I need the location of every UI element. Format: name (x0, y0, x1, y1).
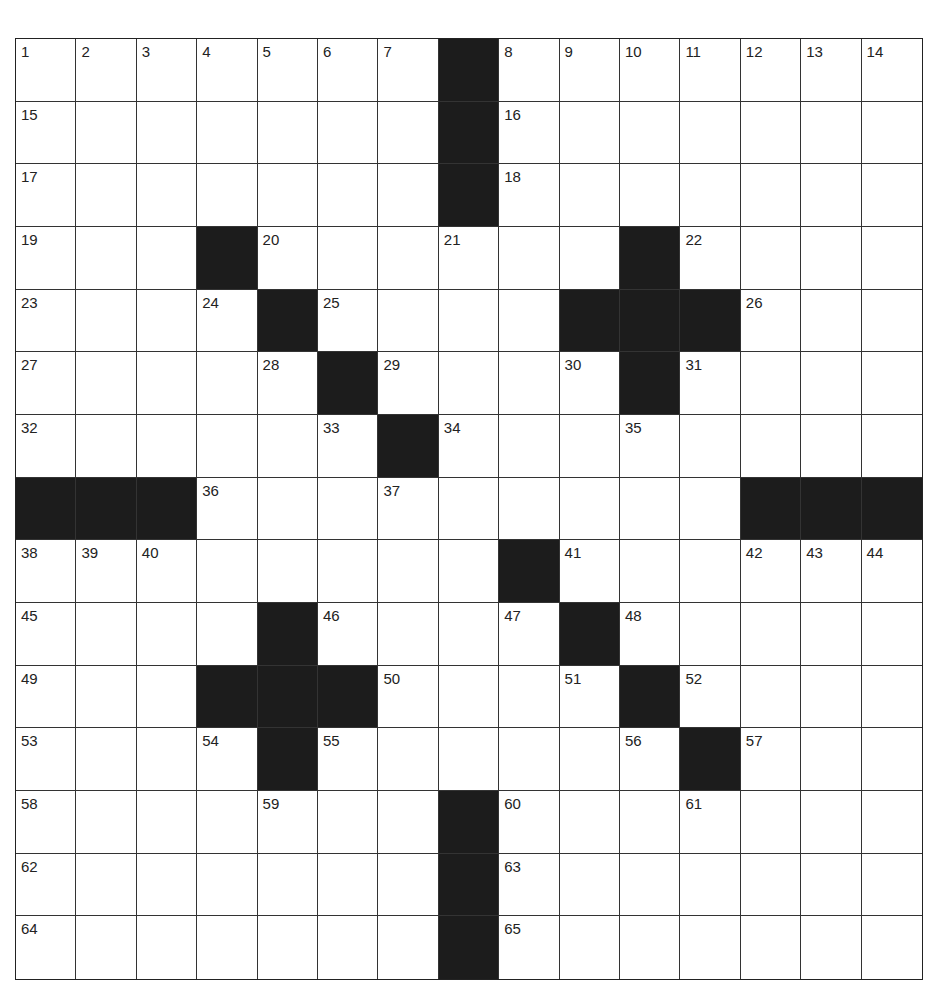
grid-cell[interactable] (378, 728, 438, 791)
grid-cell[interactable] (862, 102, 922, 165)
grid-cell[interactable] (258, 916, 318, 979)
grid-cell[interactable]: 62 (16, 854, 76, 917)
grid-cell[interactable] (318, 227, 378, 290)
grid-cell[interactable] (741, 666, 801, 729)
grid-cell[interactable] (318, 164, 378, 227)
grid-cell[interactable] (76, 102, 136, 165)
grid-cell[interactable] (680, 603, 740, 666)
grid-cell[interactable] (439, 603, 499, 666)
grid-cell[interactable] (741, 352, 801, 415)
grid-cell[interactable] (76, 791, 136, 854)
grid-cell[interactable] (378, 227, 438, 290)
grid-cell[interactable] (680, 916, 740, 979)
grid-cell[interactable]: 45 (16, 603, 76, 666)
grid-cell[interactable] (801, 854, 861, 917)
grid-cell[interactable] (499, 666, 559, 729)
grid-cell[interactable] (378, 540, 438, 603)
grid-cell[interactable] (76, 916, 136, 979)
grid-cell[interactable] (801, 791, 861, 854)
grid-cell[interactable] (197, 415, 257, 478)
grid-cell[interactable] (741, 603, 801, 666)
grid-cell[interactable] (137, 227, 197, 290)
grid-cell[interactable] (439, 666, 499, 729)
grid-cell[interactable] (76, 290, 136, 353)
grid-cell[interactable]: 6 (318, 39, 378, 102)
grid-cell[interactable] (76, 227, 136, 290)
grid-cell[interactable]: 2 (76, 39, 136, 102)
grid-cell[interactable] (560, 728, 620, 791)
grid-cell[interactable] (499, 227, 559, 290)
grid-cell[interactable] (620, 478, 680, 541)
grid-cell[interactable] (560, 415, 620, 478)
grid-cell[interactable] (862, 791, 922, 854)
grid-cell[interactable] (801, 666, 861, 729)
grid-cell[interactable] (741, 854, 801, 917)
grid-cell[interactable]: 1 (16, 39, 76, 102)
grid-cell[interactable] (318, 540, 378, 603)
grid-cell[interactable] (439, 540, 499, 603)
grid-cell[interactable] (560, 916, 620, 979)
grid-cell[interactable]: 14 (862, 39, 922, 102)
grid-cell[interactable] (378, 791, 438, 854)
grid-cell[interactable] (741, 102, 801, 165)
grid-cell[interactable] (76, 603, 136, 666)
grid-cell[interactable] (680, 164, 740, 227)
grid-cell[interactable] (76, 666, 136, 729)
grid-cell[interactable]: 49 (16, 666, 76, 729)
grid-cell[interactable]: 20 (258, 227, 318, 290)
grid-cell[interactable]: 30 (560, 352, 620, 415)
grid-cell[interactable]: 33 (318, 415, 378, 478)
grid-cell[interactable] (862, 666, 922, 729)
grid-cell[interactable] (439, 478, 499, 541)
grid-cell[interactable] (197, 540, 257, 603)
grid-cell[interactable] (76, 164, 136, 227)
grid-cell[interactable] (197, 854, 257, 917)
grid-cell[interactable] (801, 728, 861, 791)
grid-cell[interactable]: 55 (318, 728, 378, 791)
grid-cell[interactable] (318, 791, 378, 854)
grid-cell[interactable] (137, 415, 197, 478)
grid-cell[interactable] (680, 415, 740, 478)
grid-cell[interactable] (137, 352, 197, 415)
grid-cell[interactable] (197, 603, 257, 666)
grid-cell[interactable]: 12 (741, 39, 801, 102)
grid-cell[interactable] (741, 916, 801, 979)
grid-cell[interactable]: 17 (16, 164, 76, 227)
grid-cell[interactable] (137, 102, 197, 165)
grid-cell[interactable]: 9 (560, 39, 620, 102)
grid-cell[interactable]: 46 (318, 603, 378, 666)
grid-cell[interactable]: 57 (741, 728, 801, 791)
grid-cell[interactable]: 15 (16, 102, 76, 165)
grid-cell[interactable] (137, 290, 197, 353)
grid-cell[interactable] (862, 603, 922, 666)
grid-cell[interactable] (258, 854, 318, 917)
grid-cell[interactable] (258, 102, 318, 165)
grid-cell[interactable]: 21 (439, 227, 499, 290)
grid-cell[interactable] (862, 290, 922, 353)
grid-cell[interactable] (258, 478, 318, 541)
grid-cell[interactable]: 50 (378, 666, 438, 729)
grid-cell[interactable] (680, 478, 740, 541)
grid-cell[interactable]: 31 (680, 352, 740, 415)
grid-cell[interactable] (862, 916, 922, 979)
grid-cell[interactable]: 5 (258, 39, 318, 102)
grid-cell[interactable] (620, 791, 680, 854)
grid-cell[interactable]: 37 (378, 478, 438, 541)
grid-cell[interactable]: 7 (378, 39, 438, 102)
grid-cell[interactable] (741, 227, 801, 290)
grid-cell[interactable] (197, 352, 257, 415)
grid-cell[interactable]: 34 (439, 415, 499, 478)
grid-cell[interactable] (197, 102, 257, 165)
grid-cell[interactable] (741, 791, 801, 854)
grid-cell[interactable]: 3 (137, 39, 197, 102)
grid-cell[interactable]: 32 (16, 415, 76, 478)
grid-cell[interactable]: 61 (680, 791, 740, 854)
grid-cell[interactable] (560, 227, 620, 290)
grid-cell[interactable] (318, 478, 378, 541)
grid-cell[interactable] (378, 916, 438, 979)
grid-cell[interactable]: 56 (620, 728, 680, 791)
grid-cell[interactable]: 26 (741, 290, 801, 353)
grid-cell[interactable]: 35 (620, 415, 680, 478)
grid-cell[interactable] (499, 728, 559, 791)
grid-cell[interactable] (560, 478, 620, 541)
